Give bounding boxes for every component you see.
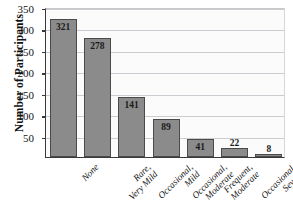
bar: 41 [187,139,214,157]
gridline [46,9,284,10]
bar [221,148,248,157]
bar [255,154,282,157]
y-axis-tick-label: 300 [0,24,34,36]
y-axis-tick-mark [42,52,46,53]
y-axis-tick-mark [42,95,46,96]
bar-value-label: 41 [188,142,213,153]
bar-value-label: 89 [154,122,179,133]
x-axis-category-label: None [80,162,101,183]
y-axis-tick-label: 100 [0,110,34,122]
gridline [46,52,284,53]
bar: 89 [153,119,180,157]
gridline [46,116,284,117]
y-axis-tick-label: 50 [0,132,34,144]
bar-value-label: 321 [51,22,76,33]
x-axis-category-label: Rare,Very Mild [119,162,159,202]
gridline [46,30,284,31]
bar: 321 [50,19,77,157]
y-axis-tick-label: 250 [0,46,34,58]
gridline [46,95,284,96]
y-axis-tick-mark [42,30,46,31]
y-axis-tick-label: 150 [0,89,34,101]
y-axis-tick-label: 200 [0,67,34,79]
y-axis-tick-mark [42,138,46,139]
bar-chart: Number of Participants 50100150200250300… [0,0,293,218]
bar: 278 [84,38,111,157]
bar-value-label: 278 [85,41,110,52]
plot-area: 501001502002503003503212781418941228 [45,8,285,158]
x-axis-category-label: Occasional,Mild [156,162,202,208]
y-axis-tick-mark [42,116,46,117]
bar: 141 [118,97,145,157]
bar-value-label: 141 [119,100,144,111]
x-axis-category-label: Occasional,Severe [259,162,293,208]
gridline [46,73,284,74]
y-axis-tick-mark [42,9,46,10]
x-axis-category-label-line: None [80,162,101,183]
y-axis-tick-mark [42,73,46,74]
y-axis-tick-label: 350 [0,3,34,15]
